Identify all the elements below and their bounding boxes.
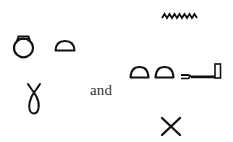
door-bolt-icon [179,63,223,81]
water-ripple-icon [161,12,198,20]
conjunction-text: and [90,82,112,98]
shen-ring-icon [12,34,35,59]
bread-loaf-icon [54,40,76,52]
wick-lasso-icon [26,83,42,116]
crossed-sticks-icon [160,116,182,137]
bread-loaf-icon-1 [129,66,150,79]
bread-loaf-icon-2 [154,66,175,79]
